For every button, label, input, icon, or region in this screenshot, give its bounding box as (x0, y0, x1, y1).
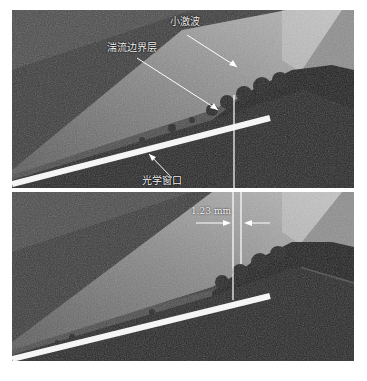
top-panel: 小激波 湍流边界层 光学窗口 (12, 10, 354, 188)
optical-window-label: 光学窗口 (142, 172, 182, 187)
schlieren-image-top (12, 10, 354, 188)
schlieren-image-bottom (12, 192, 354, 361)
bottom-panel: 1.23 mm (12, 192, 354, 361)
boundary-layer-label: 湍流边界层 (107, 39, 157, 54)
thickness-measurement-label: 1.23 mm (191, 206, 231, 216)
shock-wave-label: 小激波 (170, 13, 200, 28)
